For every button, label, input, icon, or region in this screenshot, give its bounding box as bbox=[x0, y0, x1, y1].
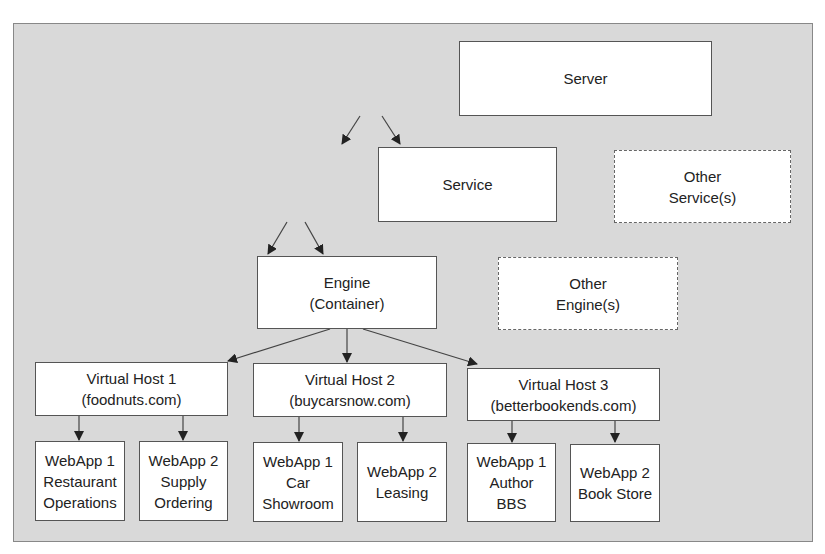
other-services-line-2: Service(s) bbox=[669, 187, 737, 208]
webapp-line: WebApp 1 bbox=[262, 451, 334, 472]
server-label: Server bbox=[563, 68, 607, 89]
virtual-host-1-name: Virtual Host 1 bbox=[81, 368, 181, 389]
webapp-line: WebApp 2 bbox=[149, 450, 219, 471]
vhost2-webapp-1-node: WebApp 1 Car Showroom bbox=[253, 442, 343, 522]
arrow-server-other-service bbox=[382, 116, 400, 144]
engine-line-2: (Container) bbox=[309, 293, 384, 314]
webapp-line: WebApp 2 bbox=[367, 461, 437, 482]
webapp-line: Car bbox=[262, 472, 334, 493]
virtual-host-2-node: Virtual Host 2 (buycarsnow.com) bbox=[253, 363, 447, 417]
virtual-host-3-domain: (betterbookends.com) bbox=[491, 395, 637, 416]
virtual-host-1-domain: (foodnuts.com) bbox=[81, 389, 181, 410]
webapp-line: Operations bbox=[43, 492, 116, 513]
webapp-line: Ordering bbox=[149, 492, 219, 513]
webapp-line: Supply bbox=[149, 471, 219, 492]
virtual-host-3-name: Virtual Host 3 bbox=[491, 374, 637, 395]
other-engines-line-2: Engine(s) bbox=[556, 294, 620, 315]
webapp-line: Author bbox=[477, 472, 547, 493]
other-engines-line-1: Other bbox=[556, 273, 620, 294]
service-node: Service bbox=[378, 147, 557, 222]
vhost1-webapp-1-node: WebApp 1 Restaurant Operations bbox=[35, 441, 125, 521]
webapp-line: BBS bbox=[477, 493, 547, 514]
arrow-engine-vhost3 bbox=[363, 329, 477, 364]
service-label: Service bbox=[442, 174, 492, 195]
webapp-line: WebApp 2 bbox=[578, 462, 652, 483]
webapp-line: WebApp 1 bbox=[43, 450, 116, 471]
engine-line-1: Engine bbox=[309, 272, 384, 293]
other-engines-node: Other Engine(s) bbox=[498, 257, 678, 330]
virtual-host-2-name: Virtual Host 2 bbox=[289, 369, 411, 390]
webapp-line: Book Store bbox=[578, 483, 652, 504]
other-services-line-1: Other bbox=[669, 166, 737, 187]
vhost3-webapp-1-node: WebApp 1 Author BBS bbox=[467, 443, 556, 522]
vhost1-webapp-2-node: WebApp 2 Supply Ordering bbox=[139, 441, 228, 521]
webapp-line: Leasing bbox=[367, 482, 437, 503]
server-node: Server bbox=[459, 41, 712, 116]
other-services-node: Other Service(s) bbox=[614, 150, 791, 223]
engine-node: Engine (Container) bbox=[257, 256, 437, 329]
virtual-host-1-node: Virtual Host 1 (foodnuts.com) bbox=[35, 362, 228, 416]
arrow-service-engine bbox=[268, 222, 287, 254]
arrow-service-other-engine bbox=[305, 222, 323, 254]
arrow-engine-vhost1 bbox=[228, 329, 330, 361]
webapp-line: Restaurant bbox=[43, 471, 116, 492]
virtual-host-2-domain: (buycarsnow.com) bbox=[289, 390, 411, 411]
arrow-server-service bbox=[342, 116, 360, 144]
webapp-line: Showroom bbox=[262, 493, 334, 514]
vhost2-webapp-2-node: WebApp 2 Leasing bbox=[357, 442, 447, 522]
vhost3-webapp-2-node: WebApp 2 Book Store bbox=[570, 444, 660, 522]
webapp-line: WebApp 1 bbox=[477, 451, 547, 472]
virtual-host-3-node: Virtual Host 3 (betterbookends.com) bbox=[467, 368, 660, 421]
